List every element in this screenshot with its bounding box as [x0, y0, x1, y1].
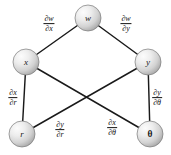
node-theta[interactable]: θ	[137, 121, 163, 147]
edge-label-dy-dr-numerator: ∂y	[55, 121, 64, 129]
edge-label-dx-dr-numerator: ∂x	[8, 89, 17, 97]
edge-label-dy-dtheta-denominator: ∂θ	[152, 98, 162, 107]
edge-label-dx-dr-denominator: ∂r	[8, 98, 17, 107]
edge-label-dy-dr: ∂y ∂r	[55, 121, 64, 139]
edge-label-dy-dtheta-numerator: ∂y	[152, 89, 162, 97]
edge-label-dx-dtheta-denominator: ∂θ	[107, 128, 117, 137]
edge-x-theta	[26, 62, 150, 134]
edge-label-dx-dtheta-numerator: ∂x	[107, 119, 117, 127]
nodes-group: w x y r θ	[9, 5, 163, 147]
node-w[interactable]: w	[75, 5, 101, 31]
node-r[interactable]: r	[9, 121, 35, 147]
node-x[interactable]: x	[13, 49, 39, 75]
edge-label-dy-dtheta: ∂y ∂θ	[152, 89, 162, 107]
edge-y-r	[22, 62, 148, 134]
node-y[interactable]: y	[135, 49, 161, 75]
edge-label-dw-dx-denominator: ∂x	[43, 24, 54, 33]
edge-label-dx-dtheta: ∂x ∂θ	[107, 119, 117, 137]
chain-rule-diagram: w x y r θ ∂w ∂x ∂w ∂y ∂	[0, 0, 171, 155]
edge-label-dw-dy-numerator: ∂w	[120, 15, 131, 23]
edges-group	[22, 18, 150, 134]
edge-label-dw-dy-denominator: ∂y	[120, 24, 131, 33]
edge-label-dw-dx-numerator: ∂w	[43, 15, 54, 23]
edge-label-dx-dr: ∂x ∂r	[8, 89, 17, 107]
edge-label-dw-dy: ∂w ∂y	[120, 15, 131, 33]
edge-label-dw-dx: ∂w ∂x	[43, 15, 54, 33]
edge-label-dy-dr-denominator: ∂r	[55, 130, 64, 139]
graph-canvas: w x y r θ	[0, 0, 171, 155]
